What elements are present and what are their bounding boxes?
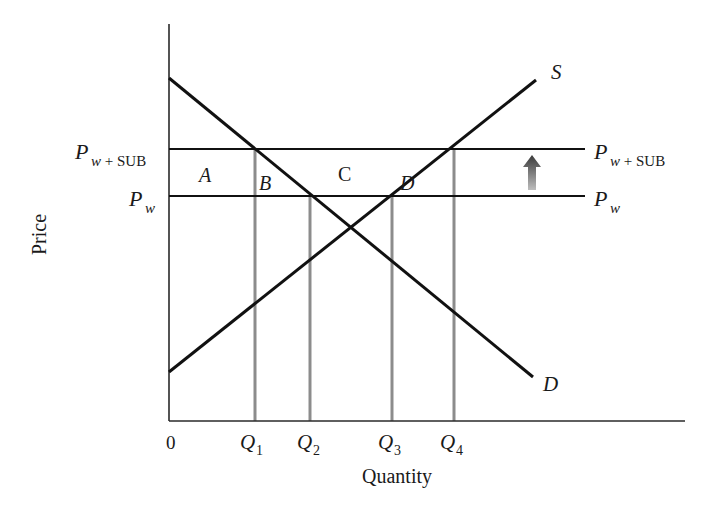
left-label-pw-sub: P w + SUB bbox=[74, 139, 146, 169]
q1-label: Q 1 bbox=[240, 430, 263, 458]
area-label-a: A bbox=[197, 164, 212, 186]
y-axis-title: Price bbox=[28, 214, 50, 255]
svg-text:w: w bbox=[610, 200, 620, 216]
q4-label: Q 4 bbox=[440, 430, 463, 458]
area-label-c: C bbox=[338, 163, 351, 185]
svg-text:Q: Q bbox=[440, 430, 455, 454]
svg-text:1: 1 bbox=[256, 443, 263, 458]
svg-text:2: 2 bbox=[313, 443, 320, 458]
subsidy-up-arrow-icon bbox=[523, 155, 541, 190]
svg-text:P: P bbox=[593, 139, 607, 164]
supply-label: S bbox=[551, 60, 562, 84]
svg-text:3: 3 bbox=[394, 443, 401, 458]
svg-text:4: 4 bbox=[456, 443, 463, 458]
left-label-pw: P w bbox=[128, 186, 155, 216]
svg-text:P: P bbox=[128, 186, 142, 211]
svg-text:w + SUB: w + SUB bbox=[610, 153, 665, 169]
q3-label: Q 3 bbox=[378, 430, 401, 458]
subsidy-diagram: S D P w + SUB P w P w + SUB P w A B C D … bbox=[0, 0, 717, 523]
x-axis-title: Quantity bbox=[362, 465, 432, 488]
demand-label: D bbox=[542, 372, 558, 396]
svg-text:Q: Q bbox=[297, 430, 312, 454]
svg-text:w: w bbox=[145, 200, 155, 216]
origin-label: 0 bbox=[166, 432, 176, 453]
svg-text:Q: Q bbox=[240, 430, 255, 454]
svg-text:Q: Q bbox=[378, 430, 393, 454]
svg-text:P: P bbox=[74, 139, 88, 164]
right-label-pw: P w bbox=[593, 186, 620, 216]
right-label-pw-sub: P w + SUB bbox=[593, 139, 665, 169]
svg-text:w + SUB: w + SUB bbox=[91, 153, 146, 169]
svg-text:P: P bbox=[593, 186, 607, 211]
area-label-d: D bbox=[399, 172, 415, 194]
q2-label: Q 2 bbox=[297, 430, 320, 458]
area-label-b: B bbox=[259, 172, 271, 194]
